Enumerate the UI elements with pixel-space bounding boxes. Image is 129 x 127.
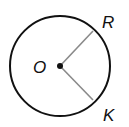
radius-or: [60, 31, 93, 66]
center-point: [57, 63, 63, 69]
point-k-label: K: [103, 106, 115, 125]
radius-ok: [60, 66, 93, 100]
point-r-label: R: [102, 13, 114, 32]
circle-diagram: O R K: [0, 0, 129, 127]
center-label: O: [33, 58, 46, 77]
